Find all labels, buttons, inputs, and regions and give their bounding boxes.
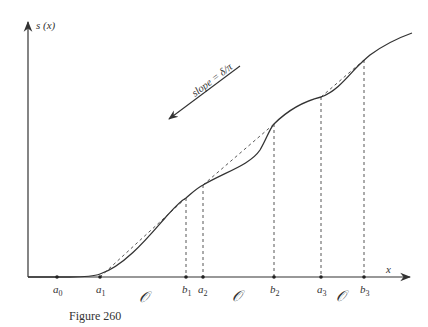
figure-canvas: slope = δ/π s (x) x a0 a1 b1 a2 b2 a3 b3… [0,0,428,327]
open-set-label-2: 𝒪 [232,288,245,304]
dashed-chords [100,60,364,277]
vertical-guides [186,60,364,277]
x-axis-label: x [385,263,391,275]
figure-caption: Figure 260 [69,309,121,323]
svg-text:a0: a0 [53,283,63,298]
svg-text:a1: a1 [96,283,106,298]
point-labels: a0 a1 b1 a2 b2 a3 b3 [53,283,370,298]
svg-text:b1: b1 [182,283,192,298]
svg-text:a3: a3 [317,283,327,298]
open-set-label-1: 𝒪 [139,289,152,305]
slope-label: slope = δ/π [190,61,235,99]
y-axis-label: s (x) [36,19,56,32]
open-set-label-3: 𝒪 [336,288,349,304]
svg-text:a2: a2 [198,283,208,298]
svg-text:b2: b2 [270,283,280,298]
svg-text:b3: b3 [360,283,370,298]
slope-arrow [169,66,240,119]
